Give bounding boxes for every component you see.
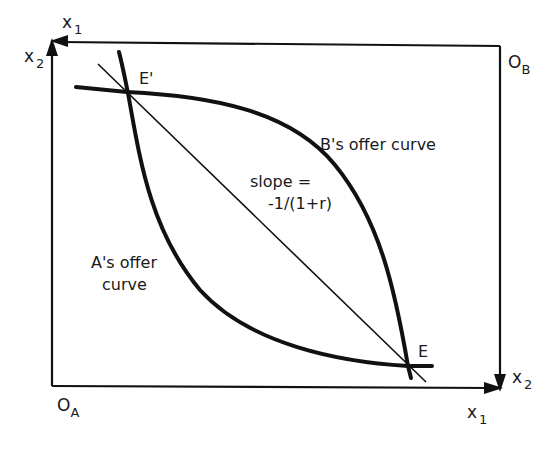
box-frame (52, 42, 500, 388)
b-offer-curve-label: B's offer curve (320, 135, 436, 154)
b-x1-axis-label: x1 (62, 12, 82, 37)
a-offer-curve-label-line1: A's offer (91, 253, 157, 272)
origin-a-label: OA (57, 395, 79, 420)
point-e-label: E (418, 342, 428, 361)
point-e-prime-label: E' (139, 69, 154, 88)
b-offer-curve (76, 87, 411, 378)
edgeworth-box-diagram: x1 x2 x2 x1 OA OB E' E B's offer curve A… (0, 0, 559, 450)
a-x1-axis (52, 386, 492, 388)
b-x2-axis-label: x2 (512, 367, 532, 392)
budget-slope-label-line2: -1/(1+r) (268, 194, 332, 213)
origin-b-label: OB (508, 52, 530, 77)
a-offer-curve-label-line2: curve (102, 275, 147, 294)
a-x2-axis-label: x2 (24, 46, 44, 71)
b-x1-axis (60, 42, 500, 46)
budget-slope-label-line1: slope = (250, 172, 311, 191)
a-x1-axis-label: x1 (467, 402, 487, 427)
